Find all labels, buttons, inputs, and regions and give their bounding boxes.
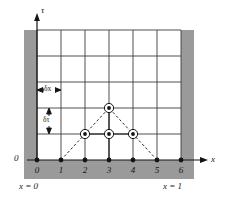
x-tick-4: 4 [126, 166, 140, 175]
right-boundary-label: x = 1 [163, 182, 182, 191]
node-x4-t0 [131, 158, 136, 163]
x-tick-5: 5 [150, 166, 164, 175]
node-x5-t0 [155, 158, 160, 163]
tau-axis-label: τ [41, 6, 44, 15]
node-x4-t1 [128, 129, 137, 138]
left-boundary-band [24, 30, 37, 160]
x-tick-1: 1 [54, 166, 68, 175]
x-tick-6: 6 [174, 166, 188, 175]
figure-container: τ x 0 δx δτ 0 1 2 3 4 5 6 x = 0 x = 1 [0, 0, 226, 202]
node-x3-t1 [104, 129, 113, 138]
node-x0-t0 [35, 158, 40, 163]
left-boundary-label: x = 0 [19, 182, 38, 191]
node-x1-t0 [59, 158, 64, 163]
x-tick-0: 0 [30, 166, 44, 175]
node-x3-t0 [107, 158, 112, 163]
delta-x-label: δx [44, 85, 51, 93]
x-axis-arrowhead [200, 157, 208, 163]
x-tick-2: 2 [78, 166, 92, 175]
delta-tau-label: δτ [43, 116, 50, 124]
right-boundary-band [181, 30, 194, 160]
node-x3-t2 [104, 103, 113, 112]
x-tick-3: 3 [102, 166, 116, 175]
node-x6-t0 [179, 158, 184, 163]
x-axis-label: x [211, 155, 215, 164]
node-x2-t0 [83, 158, 88, 163]
node-x2-t1 [80, 129, 89, 138]
tau-axis-arrowhead [34, 13, 40, 21]
origin-label: 0 [14, 154, 19, 163]
